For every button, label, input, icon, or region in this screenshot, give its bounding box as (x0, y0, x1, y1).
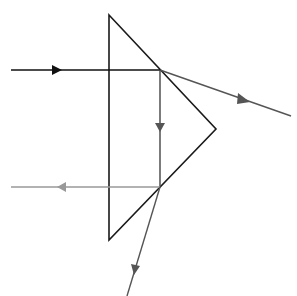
refracted-ray-lower-arrow-icon (131, 264, 140, 275)
internal-ray-arrow-icon (155, 123, 165, 132)
prism-ray-diagram (0, 0, 297, 296)
incident-ray-arrow-icon (52, 65, 62, 75)
refracted-ray-upper-arrow-icon (237, 93, 250, 104)
reflected-back-arrow-icon (57, 182, 66, 192)
refracted-ray-upper (160, 70, 291, 116)
